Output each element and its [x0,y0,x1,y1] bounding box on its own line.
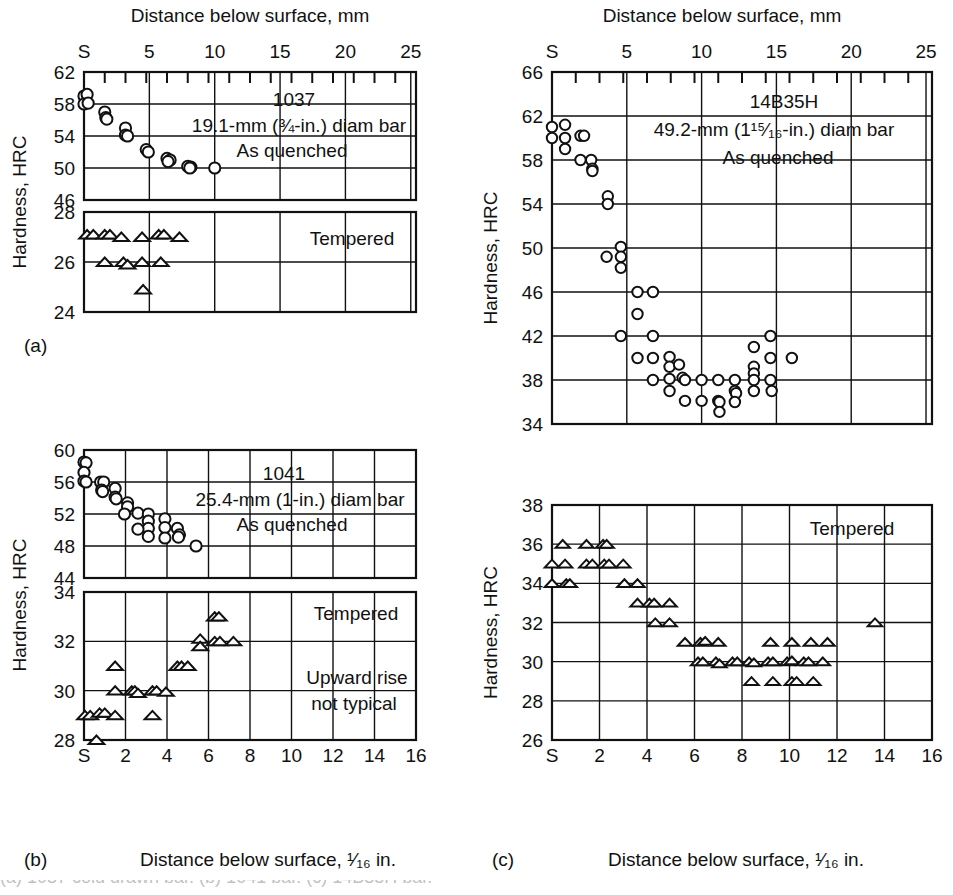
data-point-triangle [820,638,834,646]
data-point-triangle [678,638,692,646]
data-point-circle [730,397,740,407]
data-point-circle [101,114,112,125]
y-tick-label: 26 [54,252,75,273]
data-point-circle [713,375,723,385]
x-tick-label-sixteenths: 10 [281,745,302,766]
y-axis-title-b: Hardness, HRC [9,538,30,671]
data-point-triangle [785,638,799,646]
annotation-material-b: 1041 [263,463,305,484]
data-point-circle [616,263,626,273]
x-tick-label-sixteenths: 14 [364,745,386,766]
bottom-axis-title-c: Distance below surface, ¹⁄₁₆ in. [608,849,864,870]
bottom-axis-title-b: Distance below surface, ¹⁄₁₆ in. [140,849,396,870]
x-tick-label-sixteenths: 12 [826,745,847,766]
series-b-tempered [77,612,241,744]
data-point-circle [632,287,642,297]
data-point-circle [560,144,570,154]
data-point-circle [575,155,585,165]
data-point-circle [765,353,775,363]
data-point-triangle [145,711,161,719]
annotation-bar-a: 19.1-mm (¾-in.) diam bar [192,115,407,136]
data-point-circle [664,386,674,396]
x-tick-label-mm: 20 [335,41,356,62]
y-tick-label: 30 [54,681,75,702]
data-point-circle [97,486,108,497]
y-tick-label: 38 [522,370,543,391]
x-tick-label-sixteenths: 4 [162,745,173,766]
data-point-triangle [558,560,572,568]
data-point-circle [173,532,184,543]
y-tick-label: 54 [54,126,76,147]
data-point-circle [674,359,684,369]
data-point-triangle [744,677,758,685]
x-tick-label-sixteenths: 8 [245,745,256,766]
data-point-circle [648,331,658,341]
data-point-circle [696,375,706,385]
data-point-circle [749,375,759,385]
data-point-circle [648,353,658,363]
data-point-circle [80,476,91,487]
annotation-bar-c: 49.2-mm (1¹⁵⁄₁₆-in.) diam bar [654,119,895,140]
data-point-circle [664,352,674,362]
data-point-circle [714,407,724,417]
data-point-circle [680,375,690,385]
figure-root: Distance below surface, mmS5101520254650… [0,0,953,895]
data-point-triangle [804,638,818,646]
data-point-circle [83,98,94,109]
y-tick-label: 66 [522,62,543,83]
annotation-material-c: 14B35H [750,91,819,112]
annotation-note-line1-b: Upward rise [306,667,407,688]
x-tick-label-mm: 10 [691,41,712,62]
data-point-circle [122,130,133,141]
data-point-circle [749,342,759,352]
data-point-circle [603,199,613,209]
data-point-circle [765,375,775,385]
y-tick-label: 34 [54,582,76,603]
x-tick-label-sixteenths: 6 [203,745,214,766]
y-tick-label: 42 [522,326,543,347]
data-point-triangle [172,233,188,241]
x-tick-label-mm: 20 [841,41,862,62]
chart-b-quenched: 4448525660104125.4-mm (1-in.) diam barAs… [54,440,416,589]
y-tick-label: 46 [522,282,543,303]
data-point-circle [696,396,706,406]
data-point-circle [616,242,626,252]
data-point-circle [184,162,195,173]
y-tick-label: 48 [54,536,75,557]
x-tick-label-sixteenths: S [546,745,559,766]
annotation-condition-b: As quenched [237,514,348,535]
x-tick-label-mm: S [78,41,91,62]
x-tick-label-mm: 5 [622,41,633,62]
data-point-circle [664,374,674,384]
data-point-triangle [711,638,725,646]
data-point-circle [560,133,570,143]
y-axis-title-c-tempered: Hardness, HRC [480,566,501,699]
data-point-circle [714,397,724,407]
annotation-tempered-b: Tempered [314,603,399,624]
top-axis-title-right: Distance below surface, mm [603,5,842,26]
data-point-circle [547,133,557,143]
y-tick-label: 28 [522,691,543,712]
y-tick-label: 62 [522,106,543,127]
x-tick-label-sixteenths: 12 [322,745,343,766]
x-tick-label-sixteenths: 4 [642,745,653,766]
y-tick-label: 34 [522,414,544,435]
x-tick-label-mm: 25 [400,41,421,62]
annotation-condition-a: As quenched [237,140,348,161]
data-point-circle [560,120,570,130]
panel-label-b: (b) [24,849,47,870]
x-tick-label-mm: 10 [204,41,225,62]
y-axis-title-a: Hardness, HRC [9,135,30,268]
data-point-triangle [766,677,780,685]
data-point-circle [787,353,797,363]
cut-off-caption: (a) 1037 cold drawn bar. (b) 1041 bar. (… [0,880,953,895]
data-point-circle [143,531,154,542]
x-tick-label-sixteenths: 6 [689,745,700,766]
x-tick-label-mm: 15 [766,41,787,62]
x-tick-label-sixteenths: S [78,745,91,766]
data-point-circle [765,331,775,341]
x-tick-label-mm: 15 [269,41,290,62]
y-tick-label: 58 [522,150,543,171]
x-tick-label-mm: 25 [915,41,936,62]
y-tick-label: 52 [54,504,75,525]
